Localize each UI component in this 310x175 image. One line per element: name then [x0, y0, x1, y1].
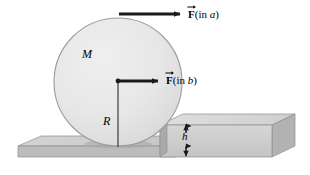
mass-label: M — [82, 48, 92, 60]
center-point-dot-icon — [116, 79, 121, 84]
ground-slab-front-face — [18, 146, 176, 157]
force-b-label: F(in b) — [166, 74, 197, 86]
step-height-label: h — [182, 131, 188, 142]
force-b-qualifier-close: ) — [193, 74, 197, 86]
step-block — [160, 114, 295, 157]
force-b-qualifier-open: (in — [173, 74, 188, 86]
force-a-label: F(in a) — [188, 8, 219, 20]
force-a-qualifier-open: (in — [195, 8, 210, 20]
force-a-symbol-text: F — [188, 8, 195, 20]
force-b-symbol-text: F — [166, 74, 173, 86]
force-a-qualifier-close: ) — [215, 8, 219, 20]
radius-label: R — [103, 115, 110, 127]
physics-figure: M R h F(in a) F(in b) — [0, 0, 310, 175]
figure-canvas — [0, 0, 310, 175]
force-a-symbol: F — [188, 8, 195, 20]
force-b-symbol: F — [166, 74, 173, 86]
step-block-front-face — [160, 125, 272, 157]
